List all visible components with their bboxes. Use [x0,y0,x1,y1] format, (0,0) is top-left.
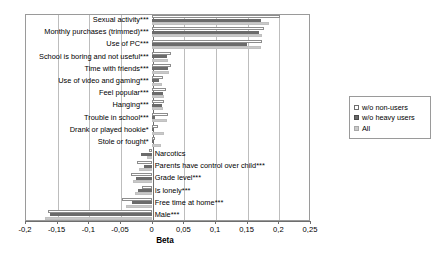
x-tick-label: 0,25 [295,225,325,234]
bar-all [152,119,167,122]
x-tick [183,221,184,224]
legend-item: All [354,124,426,133]
legend-item: w/o non-users [354,103,426,112]
x-tick-label: 0,1 [200,225,230,234]
x-tick-label: -0,05 [105,225,135,234]
category-label: Use of PC*** [106,40,148,48]
bar-all [152,83,162,86]
bar-all [152,132,164,135]
bar-all [152,22,270,25]
x-tick [120,221,121,224]
x-tick [278,221,279,224]
x-tick-label: -0,15 [42,225,72,234]
x-tick-label: 0,15 [232,225,262,234]
category-label: Narcotics [155,150,186,158]
category-label: Parents have control over child*** [155,162,265,170]
legend-swatch-icon [354,105,359,110]
bar-group [25,87,310,99]
category-label: Free time at home*** [155,199,224,207]
bar-all [139,168,152,171]
x-tick-label: 0,05 [168,225,198,234]
legend-label: All [362,124,370,133]
bar-all [152,71,170,74]
bar-all [135,192,151,195]
x-tick [215,221,216,224]
category-label: Use of video and gaming*** [58,77,148,85]
bar-group [25,99,310,111]
horizontal-bar-chart: Sexual activity***Monthly purchases (tri… [0,0,438,256]
bar-all [133,180,152,183]
category-label: Hanging*** [113,101,149,109]
x-axis-line [25,221,310,222]
category-label: Drank or played hookie* [70,126,149,134]
x-tick [57,221,58,224]
bar-all [152,46,262,49]
x-tick [88,221,89,224]
bar-group [25,124,310,136]
bar-all [152,95,165,98]
legend-swatch-icon [354,115,359,120]
bar-group [25,136,310,148]
x-tick-label: 0 [137,225,167,234]
category-label: School is boring and not useful*** [39,53,149,61]
bar-all [126,205,151,208]
bar-all [45,217,151,220]
x-tick [310,221,311,224]
category-label: Grade level*** [155,174,201,182]
bar-all [147,156,152,159]
bar-group [25,63,310,75]
category-label: Time with friends*** [84,65,148,73]
chart-legend: w/o non-usersw/o heavy usersAll [349,96,431,139]
bar-all [152,34,263,37]
category-label: Is lonely*** [155,187,191,195]
x-tick [152,221,153,224]
x-tick-label: -0,1 [73,225,103,234]
legend-item: w/o heavy users [354,113,426,122]
bar-all [152,107,163,110]
legend-swatch-icon [354,126,359,131]
legend-label: w/o non-users [362,103,408,112]
category-label: Sexual activity*** [93,16,149,24]
category-label: Feel popular*** [99,89,149,97]
x-axis-title: Beta [0,236,330,245]
category-label: Trouble in school*** [84,114,149,122]
bar-group [25,14,310,26]
bar-all [152,59,168,62]
x-tick [247,221,248,224]
category-label: Stole or fought* [98,138,149,146]
x-tick [25,221,26,224]
x-tick-label: -0,2 [10,225,40,234]
bar-all [152,144,162,147]
category-label: Monthly purchases (trimmed)*** [44,28,148,36]
category-label: Male*** [155,211,180,219]
bar-group [25,38,310,50]
legend-label: w/o heavy users [362,113,415,122]
bar-group [25,111,310,123]
x-tick-label: 0,2 [263,225,293,234]
